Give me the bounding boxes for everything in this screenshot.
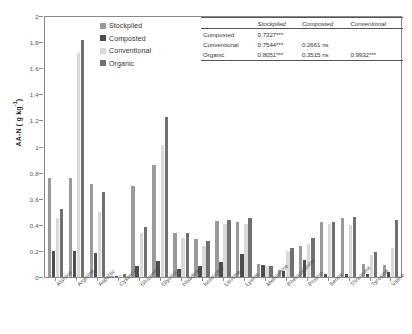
y-tick-mark [39, 147, 43, 148]
x-axis-cell: Arginine [66, 278, 87, 334]
x-axis-cell: Alanine [45, 278, 66, 334]
bar [181, 238, 184, 277]
table-cell [348, 39, 403, 49]
bar [90, 184, 93, 277]
legend-item: Composted [100, 35, 151, 42]
table-cell: 0.3515 ns [300, 50, 349, 61]
legend-label: Composted [109, 35, 146, 42]
y-axis: 00.20.40.60.811.21.41.61.82 [0, 16, 44, 278]
y-tick-label: 0.2 [30, 247, 39, 254]
bar [152, 165, 155, 277]
bar [202, 246, 205, 277]
x-axis-cell: Leucine [213, 278, 234, 334]
y-tick-label: 0.4 [30, 221, 39, 228]
bar [395, 220, 398, 277]
table-cell: 0.2661 ns [300, 39, 349, 49]
bar [69, 178, 72, 277]
y-tick-label: 1.2 [30, 117, 39, 124]
bar [248, 218, 251, 277]
bar [265, 266, 268, 277]
bar [320, 222, 323, 277]
bar [98, 212, 101, 277]
bar [227, 220, 230, 277]
bar [102, 192, 105, 277]
bar [77, 53, 80, 277]
legend-item: Conventional [100, 47, 151, 54]
y-tick-mark [39, 173, 43, 174]
x-axis-cell: Aspartic [87, 278, 108, 334]
y-tick-label: 1.6 [30, 65, 39, 72]
bar [119, 275, 122, 277]
table-column-header: Stockpiled [256, 18, 300, 29]
bar [161, 145, 164, 277]
table-header-row: StockpiledCompostedConventional [201, 18, 403, 29]
y-tick-mark [39, 94, 43, 95]
bar [366, 274, 369, 277]
bar [52, 251, 55, 277]
x-axis-cell: Valine [380, 278, 401, 334]
table-body: Composted0.7327***Conventional0.7544***0… [201, 29, 403, 61]
table-column-header: Composted [300, 18, 349, 29]
x-axis-cell: Lysine [233, 278, 254, 334]
x-axis-cell: Threonine [338, 278, 359, 334]
legend-swatch-icon [100, 48, 106, 54]
bar [144, 227, 147, 277]
x-axis-cell: Methionine [254, 278, 275, 334]
bar [131, 186, 134, 277]
y-tick-mark [39, 251, 43, 252]
bar [353, 217, 356, 277]
bar [349, 225, 352, 277]
y-tick-label: 0.8 [30, 169, 39, 176]
table-row: Organic0.8051***0.3515 ns0.9932*** [201, 50, 403, 61]
x-axis-cell: Histidine [171, 278, 192, 334]
y-axis-title: AA-N ( g kg-1) [12, 73, 21, 173]
table-row: Composted0.7327*** [201, 29, 403, 40]
bar-group [150, 16, 171, 277]
legend-swatch-icon [100, 60, 106, 66]
y-tick-mark [39, 16, 43, 17]
bar [165, 117, 168, 278]
x-tick-mark [370, 278, 371, 281]
y-tick-label: 1.8 [30, 39, 39, 46]
legend-label: Organic [109, 60, 134, 67]
bar [60, 209, 63, 277]
x-axis-cell: Glycine [150, 278, 171, 334]
table-cell: 0.7544*** [256, 39, 300, 49]
table-cell [300, 29, 349, 40]
bar [140, 233, 143, 277]
y-tick-mark [39, 277, 43, 278]
legend-swatch-icon [100, 23, 106, 29]
table-column-header [201, 18, 256, 29]
bar [370, 255, 373, 277]
legend-item: Organic [100, 60, 151, 67]
bar [81, 40, 84, 278]
x-axis-cell: Serine [317, 278, 338, 334]
bar [244, 224, 247, 277]
table-row-header: Organic [201, 50, 256, 61]
bar-group [66, 16, 87, 277]
bar [56, 218, 59, 277]
table-row-header: Conventional [201, 39, 256, 49]
bar [374, 252, 377, 277]
bar [115, 276, 118, 277]
bar [186, 233, 189, 277]
bar [345, 274, 348, 277]
table-cell: 0.9932*** [348, 50, 403, 61]
bar [391, 248, 394, 277]
y-tick-mark [39, 225, 43, 226]
table-row: Conventional0.7544***0.2661 ns [201, 39, 403, 49]
x-axis-cell: Tyrosine [359, 278, 380, 334]
x-axis: AlanineArginineAsparticCysteineGlutamicG… [45, 278, 401, 334]
bar [261, 265, 264, 277]
bar-group [171, 16, 192, 277]
x-axis-cell: Phenylalanine [275, 278, 296, 334]
bar [341, 218, 344, 277]
bar [48, 178, 51, 277]
table-cell: 0.8051*** [256, 50, 300, 61]
bar [328, 224, 331, 278]
y-tick-mark [39, 42, 43, 43]
y-tick-label: 1.4 [30, 91, 39, 98]
y-tick-mark [39, 199, 43, 200]
correlation-table: StockpiledCompostedConventional Composte… [201, 17, 403, 61]
x-axis-cell: Cysteine [108, 278, 129, 334]
